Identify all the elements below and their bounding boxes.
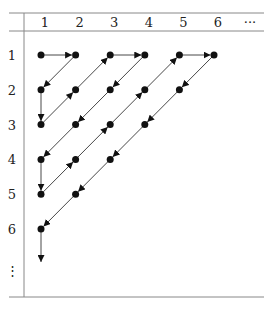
grid-dot <box>107 86 114 93</box>
path-arrow <box>76 57 108 89</box>
path-arrow <box>76 127 108 159</box>
grid-dot <box>141 52 148 59</box>
path-arrow <box>78 159 110 191</box>
path-arrow <box>43 194 75 226</box>
grid-dot <box>38 86 45 93</box>
path-arrow <box>147 90 179 122</box>
enumeration-diagram: 123456··· 123456⋮ <box>0 0 274 310</box>
path-arrow <box>113 125 145 157</box>
row-label: 5 <box>8 187 16 202</box>
grid-dot <box>176 86 183 93</box>
grid-dot <box>107 156 114 163</box>
grid-dot <box>38 52 45 59</box>
grid-dot <box>211 52 218 59</box>
column-label: 5 <box>179 15 187 30</box>
row-label: ⋮ <box>6 263 19 278</box>
grid-dot <box>107 121 114 128</box>
column-label: 3 <box>110 15 118 30</box>
path-arrow <box>78 90 110 122</box>
path-arrow <box>41 162 73 194</box>
path-arrow <box>43 55 75 87</box>
table-rules <box>9 13 264 297</box>
path-arrow <box>41 92 73 124</box>
column-labels: 123456··· <box>41 15 256 30</box>
grid-dot <box>107 52 114 59</box>
grid-dot <box>38 226 45 233</box>
grid-dot <box>141 121 148 128</box>
grid-dot <box>72 121 79 128</box>
row-label: 6 <box>8 222 16 237</box>
grid-dot <box>38 191 45 198</box>
column-label: 6 <box>214 15 222 30</box>
column-label: 2 <box>75 15 83 30</box>
grid-dot <box>72 156 79 163</box>
path-arrow <box>110 92 142 124</box>
grid-dot <box>72 52 79 59</box>
path-arrow <box>182 55 214 87</box>
path-arrow <box>145 57 177 89</box>
column-label: 1 <box>41 15 49 30</box>
grid-dot <box>38 156 45 163</box>
grid-dot <box>72 191 79 198</box>
grid-dot <box>72 86 79 93</box>
row-labels: 123456⋮ <box>6 48 19 278</box>
column-label: ··· <box>244 15 256 30</box>
column-label: 4 <box>145 15 153 30</box>
grid-dot <box>176 52 183 59</box>
row-label: 2 <box>8 83 16 98</box>
row-label: 4 <box>8 152 16 167</box>
grid-dot <box>141 86 148 93</box>
path-edges <box>41 55 214 262</box>
row-label: 1 <box>8 48 16 63</box>
path-arrow <box>43 125 75 157</box>
grid-dot <box>38 121 45 128</box>
path-arrow <box>113 55 145 87</box>
row-label: 3 <box>8 118 16 133</box>
